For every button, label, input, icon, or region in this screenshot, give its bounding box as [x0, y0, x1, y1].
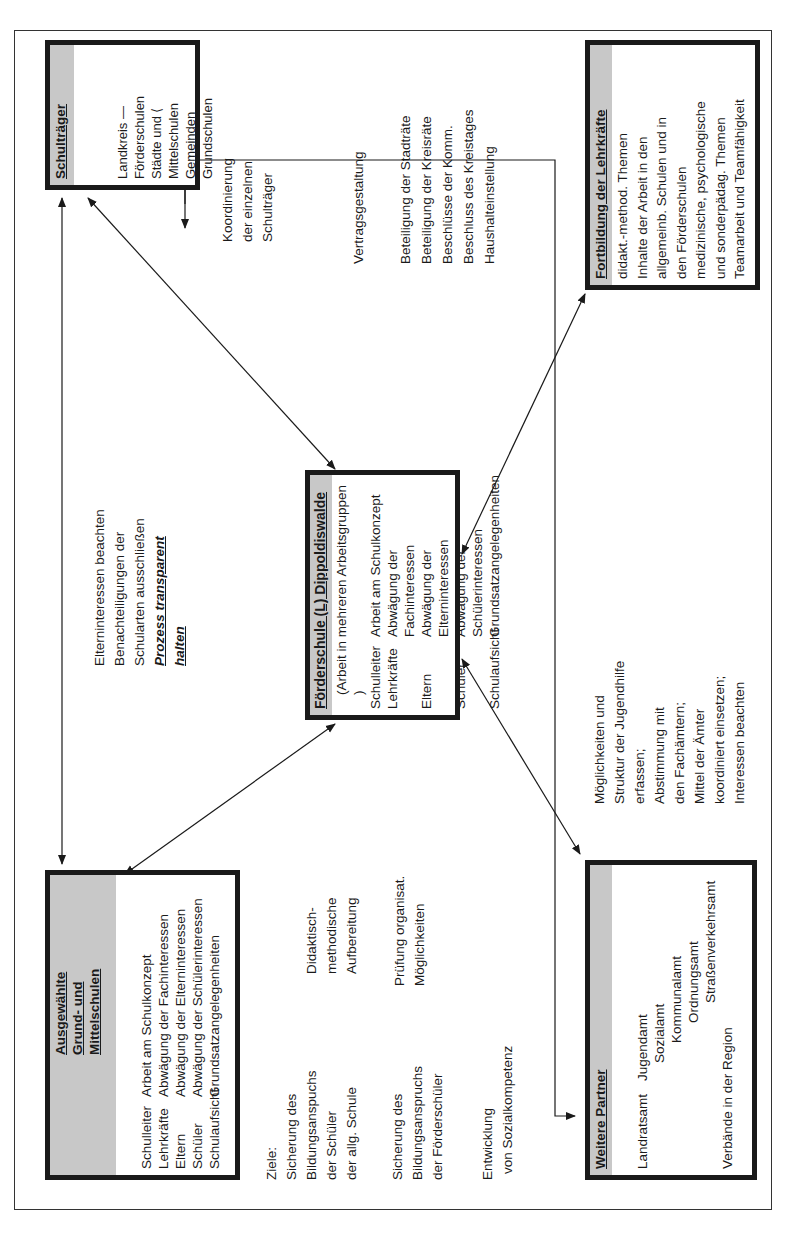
box-body: didakt.-method. Themen Inhalte der Arbei…	[612, 45, 754, 285]
box-header: Weitere Partner	[590, 865, 612, 1175]
text-line: und sonderpädag. Themen	[711, 51, 731, 279]
text-line: Aufbereitung	[342, 897, 362, 974]
text-line: den Fachämtern;	[670, 661, 690, 804]
task: Abwägung der Fachinteressen	[384, 481, 418, 637]
text-line: Prüfung organisat.	[390, 876, 410, 986]
task: Arbeit am Schulkonzept	[138, 954, 155, 1097]
text-line: von Sozialkompetenz	[498, 1046, 518, 1180]
box-body: Landkreis — Förderschulen Städte und ⟨ M…	[74, 45, 220, 185]
text-line: Bildungsanspruchs	[408, 1066, 428, 1180]
title-line: Mittelschulen	[87, 969, 102, 1055]
text-line: Entwicklung	[478, 1046, 498, 1180]
text-line: Didaktisch-	[302, 897, 322, 974]
role: Lehrkräfte	[155, 1097, 172, 1169]
office-list: Jugendamt Sozialamt Kommunalamt Ordnungs…	[634, 881, 719, 1081]
title-line: Grund- und	[70, 982, 85, 1055]
annotation-koordinierung: Koordinierung der einzelnen Schulträger	[218, 158, 278, 242]
box-schultraeger: Schulträger Landkreis — Förderschulen St…	[45, 40, 200, 190]
task: Grundsatzangelegenheiten	[486, 475, 503, 637]
text-line: Bildungsanspuchs	[302, 1070, 322, 1180]
box-body: (Arbeit in mehreren Arbeitsgruppen ) Sch…	[332, 475, 507, 715]
task: Abwägung der Elterninteressen	[172, 909, 189, 1097]
text-line: Landkreis — Förderschulen	[114, 51, 148, 179]
text-line: der Förderschüler	[428, 1066, 448, 1180]
text-line: den Förderschulen	[672, 51, 692, 279]
task: Abwägung der Schülerinteressen	[452, 481, 486, 637]
text-line: Benachteiligungen der	[110, 509, 130, 666]
text-line: Sicherung des	[282, 1070, 302, 1180]
text-line: Koordinierung	[218, 158, 238, 242]
task: Abwägung der Schülerinteressen	[189, 898, 206, 1097]
box-body: Landratsamt Jugendamt Sozialamt Kommunal…	[612, 865, 740, 1175]
annotation-vertragsgestaltung: Vertragsgestaltung	[350, 151, 367, 264]
role: Lehrkräfte	[384, 637, 418, 709]
box-title: Fortbildung der Lehrkräfte	[593, 109, 608, 279]
box-header: Förderschule (L) Dippoldiswalde	[310, 475, 332, 715]
task: Abwägung der Fachinteressen	[155, 914, 172, 1097]
text-line: allgemeinb. Schulen und in	[652, 51, 672, 279]
role-row: SchulaufsichtGrundsatzangelegenheiten	[486, 481, 503, 709]
text-line: Beschlüsse der Komm.	[437, 109, 458, 264]
office-item: Jugendamt	[634, 881, 651, 1081]
role: Schüler	[452, 637, 486, 709]
footer-line: Verbände in der Region	[719, 871, 736, 1169]
text-line: Schulträger	[258, 158, 278, 242]
role: Schüler	[189, 1097, 206, 1169]
text-line: Teamarbeit und Teamfähigkeit	[730, 51, 750, 279]
role: Schulaufsicht	[486, 637, 503, 709]
role-row: ElternAbwägung der Elterninteressen	[172, 881, 189, 1169]
role-row: LehrkräfteAbwägung der Fachinteressen	[155, 881, 172, 1169]
box-header: Fortbildung der Lehrkräfte	[590, 45, 612, 285]
annotation-pruefung: Prüfung organisat. Möglichkeiten	[390, 876, 430, 986]
annotation-didaktisch: Didaktisch- methodische Aufbereitung	[302, 897, 362, 974]
role-row: SchülerAbwägung der Schülerinteressen	[189, 881, 206, 1169]
text-line: medizinische, psychologische	[691, 51, 711, 279]
text-line: Beteiligung der Kreisräte	[416, 109, 437, 264]
box-fortbildung: Fortbildung der Lehrkräfte didakt.-metho…	[585, 40, 760, 290]
role: Schulleiter	[138, 1097, 155, 1169]
annotation-beteiligung: Beteiligung der Stadträte Beteiligung de…	[395, 109, 500, 264]
role: Schulaufsicht	[206, 1097, 223, 1169]
role-row: SchulleiterArbeit am Schulkonzept	[138, 881, 155, 1169]
title-line: Ausgewählte	[53, 972, 68, 1055]
box-ausgewaehlte-schulen: Ausgewählte Grund- und Mittelschulen Sch…	[45, 870, 240, 1180]
text-line: Beteiligung der Stadträte	[395, 109, 416, 264]
text-line: der einzelnen	[238, 158, 258, 242]
annotation-jugendhilfe: Möglichkeiten und Struktur der Jugendhil…	[590, 661, 750, 804]
annotation-ziele-foerderschueler: Sicherung des Bildungsanspruchs der Förd…	[388, 1066, 448, 1180]
emphasis-line: Prozess transparent	[150, 509, 170, 666]
task: Grundsatzangelegenheiten	[206, 935, 223, 1097]
text-line: Elterninteressen beachten	[90, 509, 110, 666]
role-row: SchulaufsichtGrundsatzangelegenheiten	[206, 881, 223, 1169]
text-line: Gemeinden Grundschulen	[182, 51, 216, 179]
text-line: der allg. Schule	[342, 1070, 362, 1180]
role-row: SchülerAbwägung der Schülerinteressen	[452, 481, 486, 709]
annotation-elterninteressen: Elterninteressen beachten Benachteiligun…	[90, 509, 190, 666]
diagram-canvas: Ausgewählte Grund- und Mittelschulen Sch…	[0, 0, 791, 1244]
annotation-sozialkompetenz: Entwicklung von Sozialkompetenz	[478, 1046, 518, 1180]
text-line: der Schüler	[322, 1070, 342, 1180]
box-title: Förderschule (L) Dippoldiswalde	[312, 492, 328, 709]
box-title: Weitere Partner	[593, 1069, 608, 1169]
role: Schulleiter	[367, 637, 384, 709]
subtitle: (Arbeit in mehreren Arbeitsgruppen )	[333, 481, 367, 709]
text-line: Beschluss des Kreistages	[458, 109, 479, 264]
text-line: Haushalteinstellung	[479, 109, 500, 264]
text-line: Möglichkeiten und	[590, 661, 610, 804]
group-label: Landratsamt	[634, 1081, 719, 1169]
text-line: Möglichkeiten	[410, 876, 430, 986]
role: Eltern	[418, 637, 452, 709]
office-item: Ordnungsamt	[685, 881, 702, 1081]
text-line: Städte und ⟨ Mittelschulen	[148, 51, 182, 179]
role-row: LehrkräfteAbwägung der Fachinteressen	[384, 481, 418, 709]
box-header: Ausgewählte Grund- und Mittelschulen	[50, 875, 116, 1175]
annotation-ziele: Ziele: Sicherung des Bildungsanspuchs de…	[262, 1070, 362, 1180]
box-header: Schulträger	[50, 45, 74, 185]
text-line: didakt.-method. Themen	[613, 51, 633, 279]
role: Eltern	[172, 1097, 189, 1169]
text-line: Schularten ausschließen	[130, 509, 150, 666]
text-line: Interessen beachten	[730, 661, 750, 804]
text-line: Mittel der Ämter	[690, 661, 710, 804]
emphasis-line: halten	[170, 509, 190, 666]
box-weitere-partner: Weitere Partner Landratsamt Jugendamt So…	[585, 860, 757, 1180]
